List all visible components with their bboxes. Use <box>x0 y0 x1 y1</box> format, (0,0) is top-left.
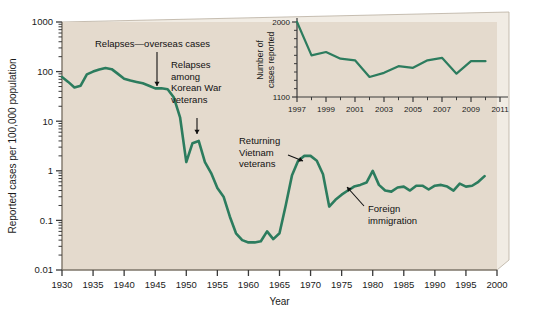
inset-y-axis-title-line1: Number of <box>255 40 265 80</box>
inset-x-tick-label: 1997 <box>288 105 306 114</box>
y-axis-title: Reported cases per 100,000 population <box>7 58 18 233</box>
y-tick-label: 0.1 <box>40 215 53 226</box>
x-tick-label: 1950 <box>176 279 197 290</box>
x-axis-title: Year <box>269 296 290 307</box>
annotation-korean-war-line: Relapses <box>171 59 211 70</box>
inset-x-tick-label: 1999 <box>317 105 335 114</box>
x-tick-label: 1970 <box>300 279 321 290</box>
x-tick-label: 1965 <box>269 279 290 290</box>
annotation-vietnam-line: Returning <box>239 135 280 146</box>
x-tick-label: 1990 <box>424 279 445 290</box>
inset-x-tick-label: 2007 <box>433 105 451 114</box>
annotation-korean-war-line: among <box>171 71 200 82</box>
plot-panel <box>62 12 509 270</box>
annotation-relapses-overseas: Relapses—overseas cases <box>95 38 210 49</box>
inset-y-tick-label: 1100 <box>273 93 291 102</box>
inset-x-tick-label: 2009 <box>462 105 480 114</box>
x-tick-label: 1985 <box>393 279 414 290</box>
x-tick-label: 1975 <box>331 279 352 290</box>
y-tick-label: 1 <box>48 165 53 176</box>
x-tick-label: 1955 <box>207 279 228 290</box>
annotation-vietnam-line: Vietnam <box>239 147 274 158</box>
x-axis-ticks: 1930193519401945195019551960196519701975… <box>51 270 507 290</box>
y-tick-label: 100 <box>37 66 53 77</box>
annotation-vietnam-line: veterans <box>239 158 276 169</box>
x-tick-label: 1995 <box>455 279 476 290</box>
inset-y-axis-title-line2: cases reported <box>266 32 276 88</box>
y-axis-ticks: 10001001010.10.01 <box>32 16 62 275</box>
x-tick-label: 1940 <box>114 279 135 290</box>
x-tick-label: 1960 <box>238 279 259 290</box>
x-tick-label: 1980 <box>362 279 383 290</box>
annotation-korean-war-line: Korean War <box>171 82 221 93</box>
x-tick-label: 1935 <box>83 279 104 290</box>
inset-y-tick-label: 2000 <box>272 18 290 27</box>
inset-x-tick-label: 2003 <box>375 105 393 114</box>
inset-x-tick-label: 2011 <box>491 105 509 114</box>
malaria-incidence-chart: 10001001010.10.0119301935194019451950195… <box>0 0 543 318</box>
annotation-korean-war-line: veterans <box>171 94 208 105</box>
annotation-foreign-immigration-line: immigration <box>368 215 417 226</box>
x-tick-label: 1945 <box>145 279 166 290</box>
x-tick-label: 1930 <box>51 279 72 290</box>
x-tick-label: 2000 <box>486 279 507 290</box>
y-tick-label: 10 <box>42 116 53 127</box>
figure-root: 10001001010.10.0119301935194019451950195… <box>0 0 543 318</box>
annotation-foreign-immigration-line: Foreign <box>368 203 400 214</box>
y-tick-label: 1000 <box>32 16 53 27</box>
y-tick-label: 0.01 <box>35 264 54 275</box>
inset-x-tick-label: 2001 <box>346 105 364 114</box>
inset-x-tick-label: 2005 <box>404 105 422 114</box>
